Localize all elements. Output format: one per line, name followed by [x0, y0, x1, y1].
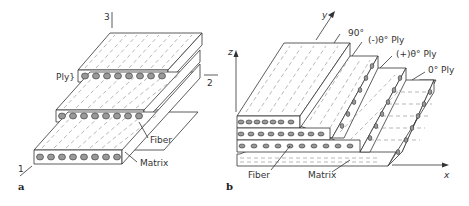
y-axis-label: y [321, 10, 328, 20]
zero-ply-label: 0° Ply [428, 65, 455, 75]
minus-theta-leader [352, 42, 362, 56]
matrix-label-a: Matrix [140, 158, 169, 168]
zero-leader [412, 72, 425, 80]
figure-b: z y x 90° (-)θ° Ply (+)θ° Ply 0° Ply Fib… [226, 10, 455, 192]
fiber-label-b: Fiber [248, 170, 270, 180]
panel-label-a: a [18, 181, 25, 192]
plus-theta-leader [380, 56, 392, 68]
axis-3-label: 3 [104, 12, 110, 22]
minus-theta-ply-label: (-)θ° Ply [368, 35, 405, 45]
laminate-diagram: 3 2 1 Ply} Fiber Matrix a [0, 0, 469, 206]
y-axis-arrow-icon [328, 11, 335, 18]
plus-theta-ply-label: (+)θ° Ply [396, 49, 437, 59]
matrix-label-b: Matrix [308, 170, 337, 180]
z-axis-label: z [227, 47, 233, 57]
ply-label-a: Ply} [56, 72, 75, 82]
axis-2-label: 2 [207, 78, 213, 88]
x-axis-arrow-icon [442, 163, 449, 168]
panel-label-b: b [226, 181, 233, 192]
fiber-label-a: Fiber [150, 135, 172, 145]
x-axis-label: x [443, 170, 450, 180]
ninety-ply-label: 90° [348, 28, 364, 38]
figure-a: 3 2 1 Ply} Fiber Matrix a [18, 12, 218, 192]
axis-1-label: 1 [18, 164, 24, 174]
ninety-leader [334, 34, 340, 43]
z-axis-arrow-icon [234, 50, 239, 57]
